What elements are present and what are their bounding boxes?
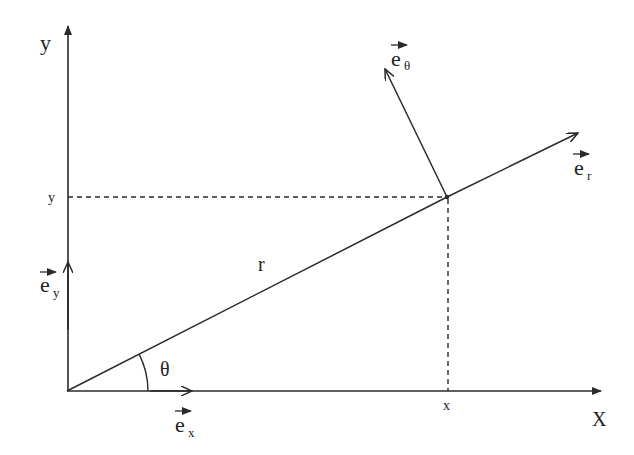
svg-text:e: e (391, 46, 401, 71)
svg-text:θ: θ (404, 58, 410, 73)
radius-line (67, 197, 447, 391)
e-r-label: e r (573, 154, 592, 183)
radius-label: r (258, 253, 265, 275)
e-r-vector (447, 133, 578, 197)
y-tick-label: y (48, 190, 55, 205)
e-x-label: e x (175, 411, 195, 440)
e-theta-vector (385, 69, 447, 197)
svg-text:y: y (53, 285, 60, 300)
x-tick-label: x (443, 398, 450, 413)
y-axis-label: y (40, 30, 51, 55)
svg-text:x: x (188, 425, 195, 440)
e-theta-label: e θ (391, 45, 410, 73)
point-p (445, 195, 449, 199)
svg-text:r: r (587, 168, 592, 183)
angle-arc (139, 354, 148, 391)
x-axis-label: X (592, 408, 607, 430)
svg-text:e: e (40, 272, 50, 297)
e-y-label: e y (40, 272, 60, 300)
svg-text:e: e (574, 155, 584, 180)
polar-coordinate-diagram: y X y x r θ e y e x e r e θ (0, 0, 634, 455)
svg-text:e: e (175, 412, 185, 437)
angle-label: θ (160, 358, 170, 380)
